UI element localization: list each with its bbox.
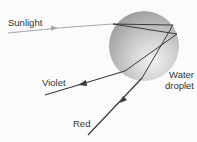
violet-arrow-icon <box>78 80 87 86</box>
water-droplet-label-line2: droplet <box>165 80 194 91</box>
sunlight-arrow-icon <box>51 26 58 31</box>
water-droplet-label-line1: Water <box>165 69 194 80</box>
sunlight-label: Sunlight <box>8 17 42 28</box>
water-droplet-label: Water droplet <box>165 69 194 91</box>
red-ray <box>88 78 142 135</box>
violet-label: Violet <box>42 77 66 88</box>
rainbow-dispersion-diagram: Sunlight Violet Red Water droplet <box>0 0 197 142</box>
red-label: Red <box>73 118 90 129</box>
